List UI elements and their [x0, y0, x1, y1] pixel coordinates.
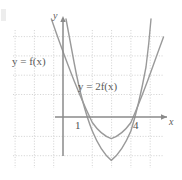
curve-f [51, 19, 163, 139]
y-axis-label: y [53, 11, 57, 21]
curve-label-2f: y = 2f(x) [78, 81, 117, 92]
x-axis-arrowhead [161, 114, 167, 119]
curve-label-f: y = f(x) [12, 56, 46, 67]
x-axis-label: x [169, 117, 173, 127]
graph-figure: y = f(x) y = 2f(x) y x 1 4 [0, 0, 182, 180]
x-tick-label-4: 4 [133, 120, 139, 131]
y-axis-arrowhead [60, 16, 65, 22]
x-tick-label-1: 1 [75, 120, 81, 131]
